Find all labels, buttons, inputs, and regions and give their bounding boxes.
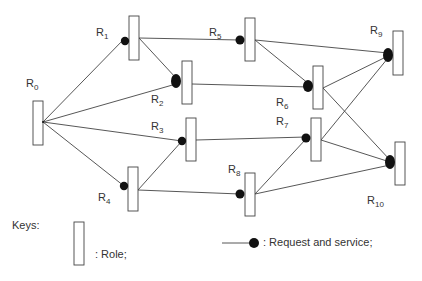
role-rects <box>33 16 405 265</box>
dot-r6 <box>303 80 313 92</box>
role-r6 <box>313 66 323 109</box>
role-r4 <box>128 167 138 211</box>
edge-r8-r10 <box>255 165 390 194</box>
dot-r5 <box>236 36 245 45</box>
edge-r0-r1 <box>43 38 125 122</box>
dot-r0-junction <box>42 121 44 123</box>
edge-r6-r9 <box>323 56 388 88</box>
label-r4: R4 <box>98 191 110 206</box>
dot-r4 <box>120 182 128 190</box>
dot-r1 <box>121 37 129 45</box>
dot-r3 <box>178 137 186 145</box>
label-r5: R5 <box>209 26 221 41</box>
label-r6: R6 <box>276 96 288 111</box>
edge-r2-r6 <box>192 84 309 87</box>
label-r1: R1 <box>96 26 108 41</box>
dot-r7 <box>302 134 311 143</box>
dot-r9 <box>383 48 393 62</box>
edge-r6-r10 <box>323 88 390 160</box>
keys-title: Keys: <box>12 219 40 231</box>
label-r2: R2 <box>151 93 163 108</box>
key-request-dot <box>249 238 259 248</box>
edge-r1-r2 <box>139 38 176 78</box>
request-dots <box>42 36 395 199</box>
edge-r8-r7 <box>255 139 306 194</box>
key-request-label: : Request and service; <box>263 236 372 248</box>
role-r7 <box>311 118 321 161</box>
label-r3: R3 <box>151 120 163 135</box>
role-r1 <box>129 16 139 60</box>
label-r10: R10 <box>367 194 384 209</box>
edge-r4-r3 <box>138 141 182 190</box>
label-r9: R9 <box>370 24 382 39</box>
edges <box>43 38 390 194</box>
key-role-label: : Role; <box>95 248 127 260</box>
key-role-rect <box>74 222 84 265</box>
edge-r7-r9 <box>321 58 388 140</box>
dot-r2 <box>171 74 181 88</box>
edge-r3-r7 <box>196 137 306 140</box>
role-r0 <box>33 101 43 145</box>
role-r9 <box>393 31 403 75</box>
edge-r7-r10 <box>321 140 390 162</box>
role-r5 <box>245 18 255 61</box>
label-r7: R7 <box>276 115 288 130</box>
edge-r5-r9 <box>255 40 388 53</box>
edge-r5-r6 <box>255 40 309 84</box>
edge-r1-r5 <box>139 38 240 40</box>
role-r3 <box>186 118 196 161</box>
label-r8: R8 <box>228 163 240 178</box>
role-r8 <box>245 173 255 216</box>
dot-r8 <box>236 190 245 199</box>
label-r0: R0 <box>26 77 38 92</box>
role-r2 <box>182 61 192 104</box>
dot-r10 <box>385 155 395 169</box>
edge-r4-r8 <box>138 190 240 194</box>
role-r10 <box>395 142 405 185</box>
